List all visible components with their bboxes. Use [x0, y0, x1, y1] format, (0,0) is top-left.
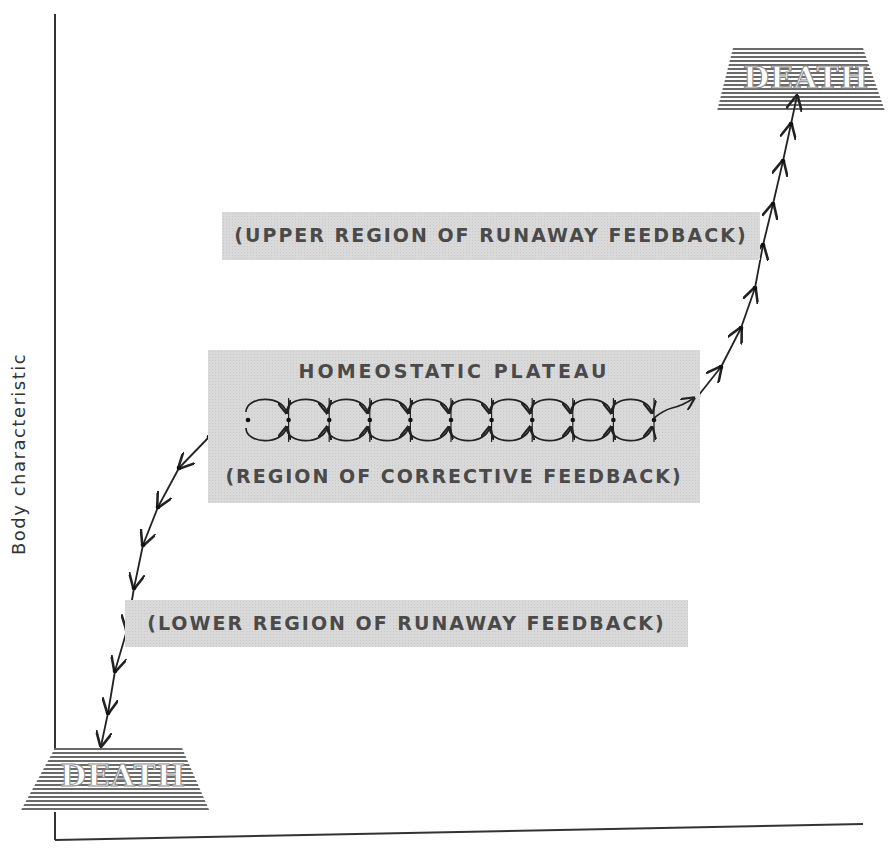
death-bottom-label: DEATH: [60, 758, 170, 793]
y-axis-label: Body characteristic: [8, 353, 29, 555]
death-top-label: DEATH: [743, 60, 853, 95]
corrective-feedback-loops: [0, 0, 895, 858]
